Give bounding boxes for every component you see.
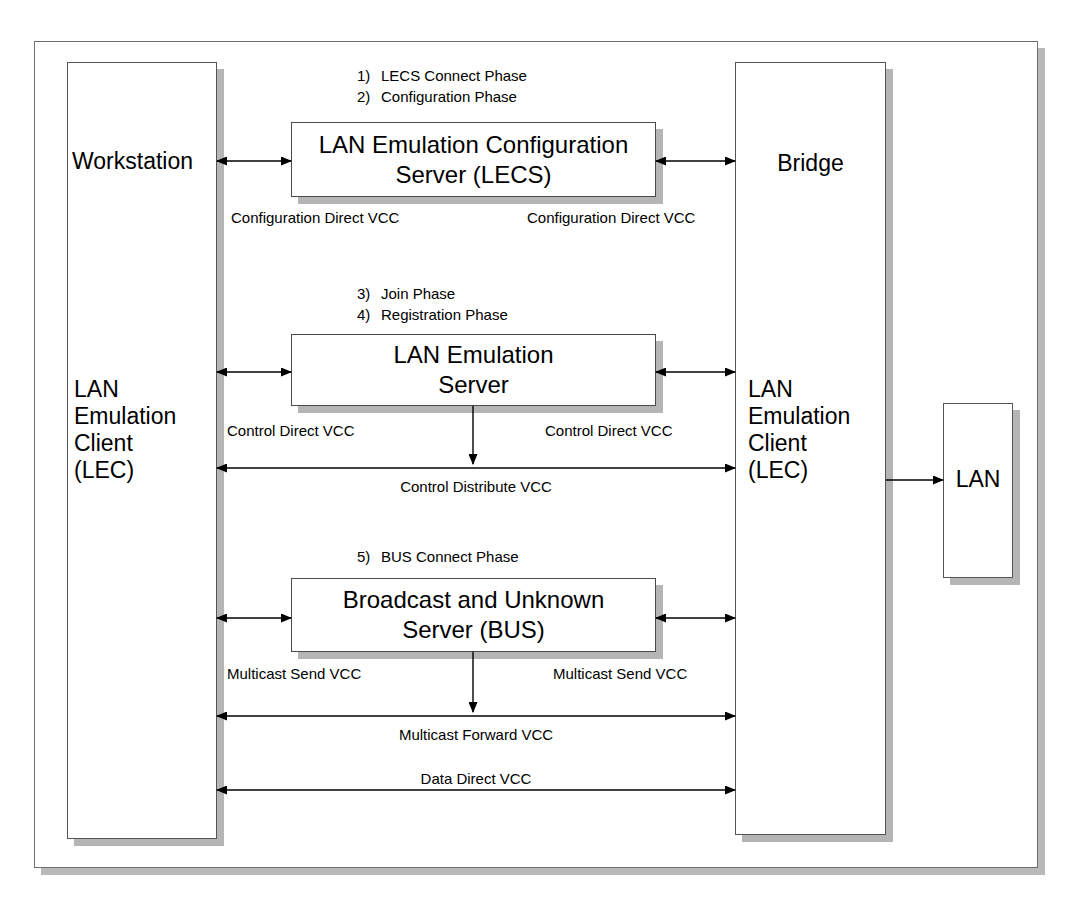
bus-box[interactable]: Broadcast and Unknown Server (BUS) [291,578,656,652]
multicast-send-left-label: Multicast Send VCC [227,665,361,683]
control-direct-left-label: Control Direct VCC [227,422,355,440]
control-direct-right-label: Control Direct VCC [545,422,673,440]
phase-number: 2) [357,86,381,107]
diagram-canvas: Workstation LAN Emulation Client (LEC) B… [0,0,1084,915]
les-box[interactable]: LAN Emulation Server [291,334,656,406]
phase-item-5: 5)BUS Connect Phase [357,546,519,567]
bridge-label: Bridge [735,150,886,177]
lecs-box[interactable]: LAN Emulation Configuration Server (LECS… [291,122,656,197]
phase-number: 4) [357,304,381,325]
multicast-send-right-label: Multicast Send VCC [553,665,687,683]
data-direct-label: Data Direct VCC [421,770,532,788]
phase-item-2: 2)Configuration Phase [357,86,517,107]
phase-item-4: 4)Registration Phase [357,304,508,325]
phase-text: Configuration Phase [381,88,517,105]
control-distribute-label: Control Distribute VCC [400,478,552,496]
phase-number: 5) [357,546,381,567]
config-direct-right-label: Configuration Direct VCC [527,209,695,227]
config-direct-left-label: Configuration Direct VCC [231,209,399,227]
phase-number: 1) [357,65,381,86]
multicast-forward-label: Multicast Forward VCC [399,726,553,744]
phase-item-3: 3)Join Phase [357,283,455,304]
phase-text: BUS Connect Phase [381,548,519,565]
phase-text: LECS Connect Phase [381,67,527,84]
lan-label: LAN [943,466,1013,493]
phase-text: Registration Phase [381,306,508,323]
phase-item-1: 1)LECS Connect Phase [357,65,527,86]
left-lec-label: LAN Emulation Client (LEC) [74,376,214,484]
phase-number: 3) [357,283,381,304]
phase-text: Join Phase [381,285,455,302]
workstation-label: Workstation [72,148,212,175]
right-lec-label: LAN Emulation Client (LEC) [748,376,888,484]
